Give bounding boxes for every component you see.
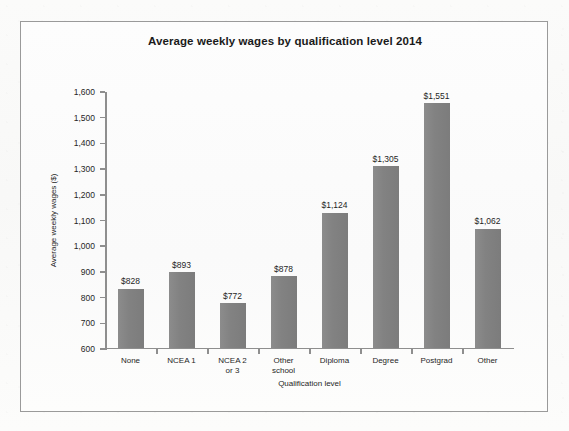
bar (322, 213, 348, 348)
chart-title: Average weekly wages by qualification le… (21, 35, 549, 47)
y-axis-tick-label: 700 (81, 318, 95, 328)
bar (118, 289, 144, 348)
bar (373, 166, 399, 347)
y-axis-tick-label: 1,500 (74, 113, 95, 123)
y-axis-title: Average weekly wages ($) (49, 0, 61, 92)
x-axis-tick (258, 349, 260, 354)
x-axis-category-label: Postgrad (420, 356, 452, 366)
y-axis-tick-label: 1,300 (74, 164, 95, 174)
y-axis-tick: 1,500 (100, 117, 105, 119)
y-axis-tick: 1,200 (100, 194, 105, 196)
y-axis-tick-label: 800 (81, 293, 95, 303)
bar-value-label: $1,551 (424, 91, 450, 101)
y-axis-tick: 1,400 (100, 143, 105, 145)
bar (220, 303, 246, 347)
bar-value-label: $1,062 (475, 216, 501, 226)
x-axis-title: Qualification level (105, 379, 514, 388)
y-axis-tick-label: 1,200 (74, 190, 95, 200)
y-axis-tick: 700 (100, 323, 105, 325)
y-axis-spine (105, 92, 107, 350)
y-axis-tick: 600 (100, 348, 105, 350)
page-background: Average weekly wages by qualification le… (0, 0, 569, 431)
bar-value-label: $1,305 (373, 154, 399, 164)
y-axis-tick-label: 1,100 (74, 216, 95, 226)
y-axis-tick: 900 (100, 271, 105, 273)
chart-figure-frame: Average weekly wages by qualification le… (20, 21, 548, 412)
bar-value-label: $1,124 (322, 200, 348, 210)
bar (424, 103, 450, 347)
x-axis-tick (207, 349, 209, 354)
y-axis-tick: 800 (100, 297, 105, 299)
y-axis-title-text: Average weekly wages ($) (49, 92, 58, 349)
y-axis-tick: 1,300 (100, 168, 105, 170)
bar (271, 276, 297, 347)
x-axis-category-label: NCEA 2 or 3 (218, 356, 246, 376)
y-axis-tick-label: 1,400 (74, 138, 95, 148)
y-axis-tick: 1,600 (100, 91, 105, 93)
y-axis-tick-label: 1,000 (74, 241, 95, 251)
bar-value-label: $878 (274, 264, 293, 274)
bar-value-label: $772 (223, 291, 242, 301)
bar-value-label: $828 (121, 276, 140, 286)
x-axis-category-label: None (121, 356, 140, 366)
y-axis-tick-label: 900 (81, 267, 95, 277)
plot-area: 6007008009001,0001,1001,2001,3001,4001,5… (105, 92, 513, 349)
x-axis-tick (411, 349, 413, 354)
x-axis-category-label: Degree (372, 356, 398, 366)
x-axis-tick (462, 349, 464, 354)
x-axis-tick (360, 349, 362, 354)
y-axis-tick: 1,100 (100, 220, 105, 222)
bar (169, 272, 195, 347)
y-axis-tick-label: 1,600 (74, 87, 95, 97)
x-axis-category-label: NCEA 1 (167, 356, 195, 366)
x-axis-tick (156, 349, 158, 354)
x-axis-category-label: Other school (272, 356, 295, 376)
y-axis-tick-label: 600 (81, 344, 95, 354)
x-axis-category-label: Diploma (320, 356, 349, 366)
x-axis-tick (309, 349, 311, 354)
x-axis-category-label: Other (477, 356, 497, 366)
y-axis-tick: 1,000 (100, 245, 105, 247)
bar-value-label: $893 (172, 260, 191, 270)
bar (475, 229, 501, 348)
